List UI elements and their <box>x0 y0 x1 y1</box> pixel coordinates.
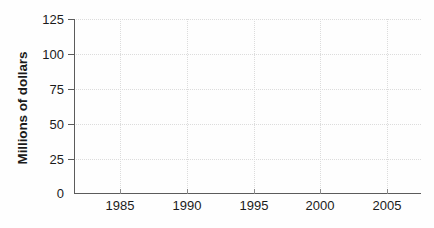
y-tick-50 <box>68 124 75 125</box>
y-tick-125 <box>68 19 75 20</box>
y-tick-75 <box>68 89 75 90</box>
x-tick-1985 <box>120 189 121 194</box>
x-tick-label-2000: 2000 <box>290 198 350 213</box>
x-tick-label-1995: 1995 <box>224 198 284 213</box>
x-tick-label-1990: 1990 <box>157 198 217 213</box>
x-tick-1990 <box>187 189 188 194</box>
y-axis-tick-labels: 125 100 75 50 25 0 <box>22 0 64 228</box>
y-tick-label-75: 75 <box>24 83 64 97</box>
y-tick-label-100: 100 <box>24 48 64 62</box>
plot-area <box>74 19 420 193</box>
y-tick-label-25: 25 <box>24 153 64 167</box>
y-tick-label-125: 125 <box>24 13 64 27</box>
x-tick-1995 <box>254 189 255 194</box>
y-axis-line <box>74 19 75 194</box>
x-axis-line <box>74 193 421 194</box>
x-tick-label-2005: 2005 <box>357 198 417 213</box>
y-tick-100 <box>68 54 75 55</box>
y-tick-label-50: 50 <box>24 118 64 132</box>
x-tick-label-1985: 1985 <box>90 198 150 213</box>
x-tick-2005 <box>387 189 388 194</box>
y-tick-label-0: 0 <box>24 187 64 201</box>
chart-figure: Millions of dollars 125 100 75 50 25 0 1… <box>0 0 434 228</box>
y-tick-25 <box>68 159 75 160</box>
x-tick-2000 <box>320 189 321 194</box>
